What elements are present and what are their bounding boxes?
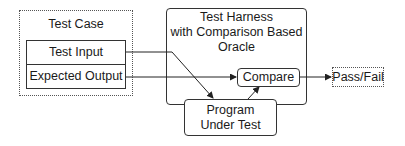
- pass-fail-box: Pass/Fail: [332, 67, 384, 87]
- program-label-line-1: Program: [207, 103, 255, 118]
- compare-label: Compare: [243, 70, 294, 85]
- pass-fail-label: Pass/Fail: [332, 70, 383, 85]
- program-under-test-box: Program Under Test: [184, 99, 277, 136]
- compare-box: Compare: [237, 68, 300, 87]
- program-label-line-2: Under Test: [200, 118, 260, 133]
